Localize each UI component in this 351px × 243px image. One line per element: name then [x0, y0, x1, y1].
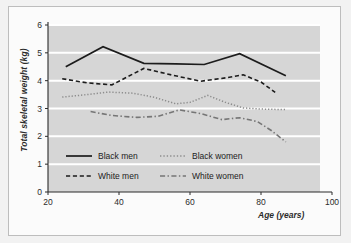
legend-label-black-men: Black men — [98, 151, 138, 161]
x-tick-label: 60 — [185, 197, 194, 207]
y-tick-label: 4 — [28, 77, 42, 85]
y-tick-label: 2 — [28, 132, 42, 140]
legend-label-black-women: Black women — [192, 151, 243, 161]
y-tick-label: 0 — [28, 188, 42, 196]
chart-plot-area: Total skeletal weight (kg) Age (years) 0… — [0, 0, 351, 243]
x-tick-label: 80 — [256, 197, 265, 207]
y-tick-label: 1 — [28, 160, 42, 168]
x-axis-label: Age (years) — [258, 210, 304, 220]
y-tick-label: 6 — [28, 21, 42, 29]
y-tick-label: 3 — [28, 105, 42, 113]
legend-label-white-women: White women — [192, 171, 244, 181]
x-tick-label: 100 — [325, 197, 339, 207]
x-tick-label: 20 — [43, 197, 52, 207]
figure-background: Total skeletal weight (kg) Age (years) 0… — [0, 0, 351, 243]
y-tick-label: 5 — [28, 49, 42, 57]
legend-label-white-men: White men — [98, 171, 139, 181]
x-tick-label: 40 — [114, 197, 123, 207]
